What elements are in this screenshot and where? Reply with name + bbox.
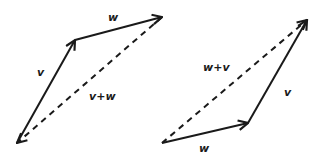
label-v-left: v: [37, 66, 45, 79]
label-v-right: v: [284, 86, 292, 99]
left-parallelogram: v w v+w: [17, 11, 162, 143]
label-v-plus-w: v+w: [89, 90, 116, 103]
label-w-right: w: [199, 142, 210, 155]
vector-w-left: [75, 17, 162, 40]
label-w-plus-v: w+v: [203, 61, 230, 74]
vector-sum-w-plus-v: [162, 20, 307, 143]
vector-v-left: [17, 40, 75, 143]
vector-v-right: [248, 20, 307, 123]
vector-addition-diagram: v w v+w w v w+v: [0, 0, 319, 159]
right-parallelogram: w v w+v: [162, 20, 307, 155]
label-w-left: w: [108, 11, 119, 24]
